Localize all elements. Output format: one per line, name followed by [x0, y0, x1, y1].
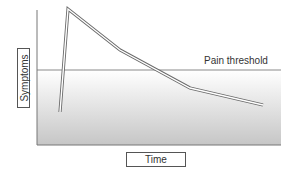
y-axis-label-box: Symptoms: [17, 48, 30, 108]
y-axis-label: Symptoms: [18, 54, 29, 101]
chart-canvas: [0, 0, 297, 174]
x-axis-label: Time: [126, 152, 186, 167]
below-threshold-region: [37, 70, 281, 145]
pain-threshold-label: Pain threshold: [204, 55, 268, 66]
